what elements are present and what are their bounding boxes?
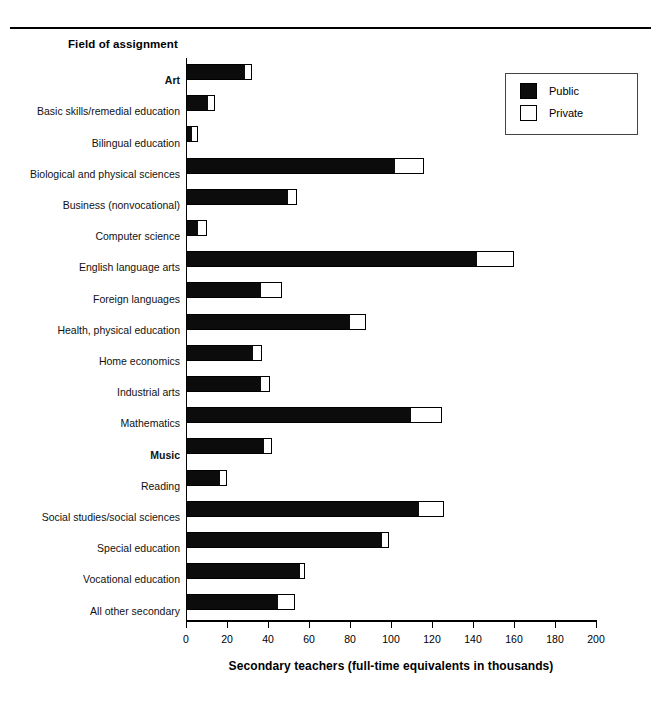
x-axis-tick xyxy=(391,620,392,628)
x-axis-tick xyxy=(432,620,433,628)
x-axis-tick-label: 120 xyxy=(412,633,452,645)
x-axis-tick-label: 40 xyxy=(248,633,288,645)
column-heading: Field of assignment xyxy=(68,38,178,50)
x-axis-title: Secondary teachers (full-time equivalent… xyxy=(186,659,596,673)
bar-row xyxy=(186,588,596,619)
bar-row xyxy=(186,432,596,463)
bar-segment-public xyxy=(187,315,350,329)
bar-row xyxy=(186,464,596,495)
stacked-bar-chart: Field of assignment ArtBasic skills/reme… xyxy=(0,0,661,706)
bar-row xyxy=(186,245,596,276)
bar-total xyxy=(186,345,262,361)
category-label: Industrial arts xyxy=(2,386,180,399)
legend-item-private: Private xyxy=(520,104,583,121)
bar-row xyxy=(186,276,596,307)
x-axis-tick xyxy=(596,620,597,628)
category-label: Basic skills/remedial education xyxy=(2,105,180,118)
bar-segment-public xyxy=(187,283,261,297)
bar-total xyxy=(186,501,444,517)
bar-total xyxy=(186,251,514,267)
bar-segment-public xyxy=(187,252,477,266)
bar-total xyxy=(186,314,366,330)
category-label: Special education xyxy=(2,542,180,555)
bar-total xyxy=(186,438,272,454)
plot-area xyxy=(186,58,596,620)
bar-row xyxy=(186,214,596,245)
category-label: All other secondary xyxy=(2,605,180,618)
bar-total xyxy=(186,220,207,236)
bar-total xyxy=(186,532,389,548)
x-axis-tick-label: 160 xyxy=(494,633,534,645)
bar-row xyxy=(186,308,596,339)
legend: Public Private xyxy=(505,73,638,135)
bar-row xyxy=(186,183,596,214)
category-label: Mathematics xyxy=(2,417,180,430)
bar-segment-public xyxy=(187,471,220,485)
bar-row xyxy=(186,339,596,370)
bar-segment-public xyxy=(187,96,208,110)
x-axis-tick xyxy=(473,620,474,628)
x-axis-tick-label: 180 xyxy=(535,633,575,645)
x-axis-tick-label: 20 xyxy=(207,633,247,645)
bar-segment-public xyxy=(187,221,198,235)
bar-total xyxy=(186,126,198,142)
x-axis-tick xyxy=(268,620,269,628)
category-label: Health, physical education xyxy=(2,324,180,337)
bar-row xyxy=(186,370,596,401)
bar-row xyxy=(186,557,596,588)
bar-total xyxy=(186,282,282,298)
x-axis-tick xyxy=(514,620,515,628)
bar-segment-public xyxy=(187,439,264,453)
category-label: Foreign languages xyxy=(2,293,180,306)
bar-total xyxy=(186,376,270,392)
bar-row xyxy=(186,401,596,432)
bar-segment-public xyxy=(187,564,300,578)
bar-segment-public xyxy=(187,346,253,360)
bar-segment-public xyxy=(187,159,395,173)
bar-segment-public xyxy=(187,595,278,609)
bar-total xyxy=(186,158,424,174)
category-label: Art xyxy=(2,74,180,87)
category-label: Business (nonvocational) xyxy=(2,199,180,212)
category-label: Bilingual education xyxy=(2,137,180,150)
category-label: Vocational education xyxy=(2,573,180,586)
bar-total xyxy=(186,594,295,610)
bar-total xyxy=(186,563,305,579)
bar-rows xyxy=(186,58,596,620)
category-label: Computer science xyxy=(2,230,180,243)
bar-row xyxy=(186,526,596,557)
category-label: Social studies/social sciences xyxy=(2,511,180,524)
category-axis-labels: ArtBasic skills/remedial educationBiling… xyxy=(0,58,180,620)
bar-total xyxy=(186,407,442,423)
bar-segment-public xyxy=(187,408,411,422)
bar-segment-public xyxy=(187,190,288,204)
category-label: English language arts xyxy=(2,261,180,274)
x-axis-tick-label: 200 xyxy=(576,633,616,645)
category-label: Reading xyxy=(2,480,180,493)
x-axis-tick-label: 80 xyxy=(330,633,370,645)
legend-item-public: Public xyxy=(520,82,579,99)
bar-total xyxy=(186,95,215,111)
bar-segment-public xyxy=(187,502,419,516)
x-axis-tick-label: 100 xyxy=(371,633,411,645)
legend-label-public: Public xyxy=(549,85,579,97)
bar-segment-public xyxy=(187,377,261,391)
bar-segment-public xyxy=(187,127,192,141)
legend-label-private: Private xyxy=(549,107,583,119)
bar-segment-public xyxy=(187,533,382,547)
bar-row xyxy=(186,495,596,526)
x-axis-tick-label: 140 xyxy=(453,633,493,645)
category-label: Biological and physical sciences xyxy=(2,168,180,181)
bar-row xyxy=(186,152,596,183)
x-axis-tick xyxy=(186,620,187,628)
x-axis-tick xyxy=(350,620,351,628)
bar-total xyxy=(186,64,252,80)
x-axis-tick xyxy=(555,620,556,628)
bar-total xyxy=(186,189,297,205)
bar-total xyxy=(186,470,227,486)
category-label: Home economics xyxy=(2,355,180,368)
legend-swatch-private xyxy=(520,105,537,121)
x-axis-tick xyxy=(309,620,310,628)
x-axis-tick-label: 0 xyxy=(166,633,206,645)
bar-segment-public xyxy=(187,65,245,79)
